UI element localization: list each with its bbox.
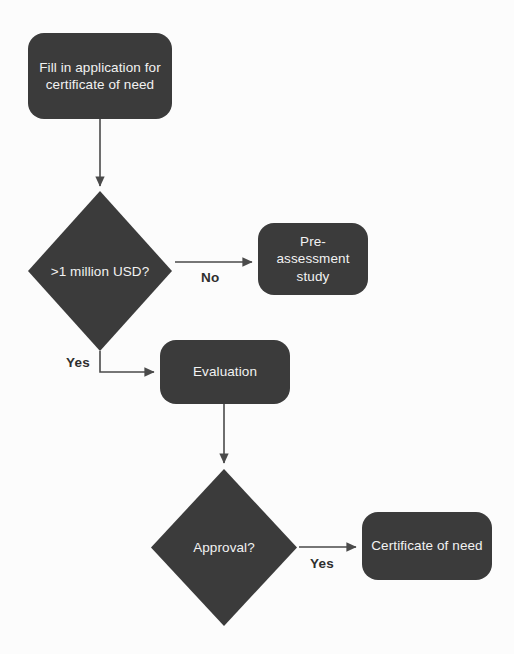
node-pre-assessment-study-label: Pre-assessmentstudy xyxy=(266,233,360,285)
node-fill-application-label: Fill in application forcertificate of ne… xyxy=(36,59,164,94)
node-approval-label: Approval? xyxy=(151,469,297,626)
edge-label-no: No xyxy=(201,270,219,285)
node-evaluation[interactable]: Evaluation xyxy=(160,340,290,404)
node-pre-assessment-study[interactable]: Pre-assessmentstudy xyxy=(258,223,368,295)
edge-label-yes-evaluation: Yes xyxy=(66,355,90,370)
node-million-usd-decision[interactable]: >1 million USD? xyxy=(28,191,172,351)
node-certificate-of-need[interactable]: Certificate of need xyxy=(362,512,492,580)
node-fill-application[interactable]: Fill in application forcertificate of ne… xyxy=(28,33,172,119)
connector-decision-to-evaluation xyxy=(100,351,154,372)
node-million-usd-label: >1 million USD? xyxy=(28,191,172,351)
node-approval-decision[interactable]: Approval? xyxy=(151,469,297,626)
node-certificate-of-need-label: Certificate of need xyxy=(370,537,484,554)
flowchart-canvas: Fill in application forcertificate of ne… xyxy=(0,0,514,654)
edge-label-yes-certificate: Yes xyxy=(310,556,334,571)
node-evaluation-label: Evaluation xyxy=(168,363,282,380)
